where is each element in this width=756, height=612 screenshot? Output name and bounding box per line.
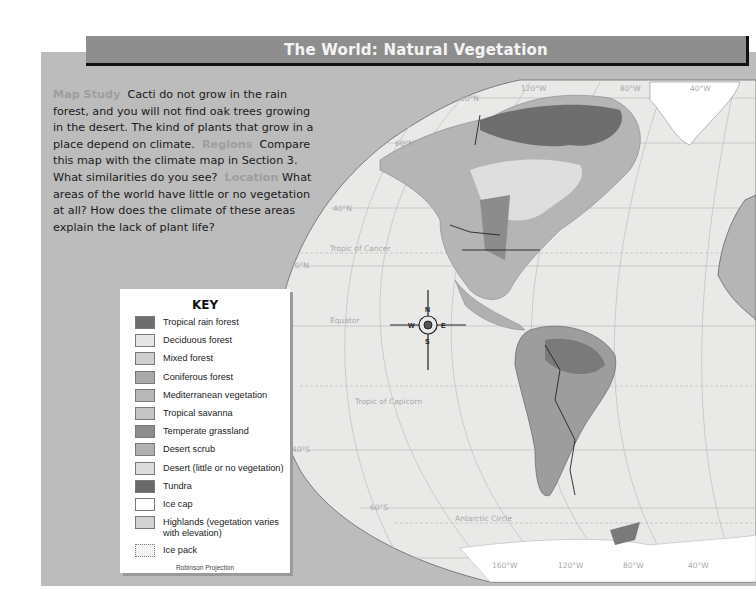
swatch-ice-pack bbox=[135, 544, 155, 557]
svg-text:Antarctic Circle: Antarctic Circle bbox=[455, 514, 512, 523]
swatch-coniferous-forest bbox=[135, 371, 155, 384]
svg-text:Equator: Equator bbox=[330, 316, 360, 325]
projection-label: Robinson Projection bbox=[120, 564, 290, 571]
swatch-tropical-savanna bbox=[135, 407, 155, 420]
svg-text:80°N: 80°N bbox=[460, 94, 479, 103]
key-label: Tropical rain forest bbox=[163, 316, 239, 328]
key-item: Desert (little or no vegetation) bbox=[135, 462, 290, 480]
key-label: Tropical savanna bbox=[163, 407, 233, 419]
map-study-label: Map Study bbox=[53, 88, 120, 101]
swatch-mediterranean bbox=[135, 389, 155, 402]
key-item: Highlands (vegetation varies with elevat… bbox=[135, 516, 290, 544]
key-label: Temperate grassland bbox=[163, 425, 249, 437]
svg-text:40°S: 40°S bbox=[292, 445, 310, 454]
swatch-tundra bbox=[135, 480, 155, 493]
key-title: KEY bbox=[120, 298, 290, 312]
svg-text:80°W: 80°W bbox=[623, 561, 644, 570]
map-key: KEY Tropical rain forest Deciduous fores… bbox=[120, 289, 290, 573]
svg-text:60°S: 60°S bbox=[370, 503, 388, 512]
key-item: Ice pack bbox=[135, 544, 290, 562]
svg-text:Tropic of Capicorn: Tropic of Capicorn bbox=[354, 397, 422, 406]
swatch-temperate-grassland bbox=[135, 425, 155, 438]
key-item: Coniferous forest bbox=[135, 371, 290, 389]
key-item: Tropical savanna bbox=[135, 407, 290, 425]
regions-label: Regions bbox=[202, 138, 252, 151]
svg-text:160°W: 160°W bbox=[492, 561, 518, 570]
key-item: Temperate grassland bbox=[135, 425, 290, 443]
svg-text:Tropic of Cancer: Tropic of Cancer bbox=[329, 244, 391, 253]
key-label: Coniferous forest bbox=[163, 371, 233, 383]
swatch-desert-scrub bbox=[135, 443, 155, 456]
svg-text:S: S bbox=[425, 338, 430, 345]
swatch-mixed-forest bbox=[135, 352, 155, 365]
key-item: Tundra bbox=[135, 480, 290, 498]
key-label: Tundra bbox=[163, 480, 192, 492]
key-item: Tropical rain forest bbox=[135, 316, 290, 334]
svg-text:20°N: 20°N bbox=[290, 261, 309, 270]
location-label: Location bbox=[225, 171, 279, 184]
key-label: Deciduous forest bbox=[163, 334, 232, 346]
title-bar: The World: Natural Vegetation bbox=[86, 36, 749, 66]
swatch-ice-cap bbox=[135, 498, 155, 511]
svg-text:N: N bbox=[425, 306, 430, 313]
key-item: Desert scrub bbox=[135, 443, 290, 461]
intro-text: Map Study Cacti do not grow in the rain … bbox=[53, 87, 318, 236]
key-item: Mediterranean vegetation bbox=[135, 389, 290, 407]
key-label: Desert (little or no vegetation) bbox=[163, 462, 284, 474]
svg-text:40°N: 40°N bbox=[333, 204, 352, 213]
key-label: Highlands (vegetation varies with elevat… bbox=[163, 516, 290, 539]
key-item: Mixed forest bbox=[135, 352, 290, 370]
page-title: The World: Natural Vegetation bbox=[86, 41, 746, 59]
key-label: Mediterranean vegetation bbox=[163, 389, 267, 401]
swatch-desert bbox=[135, 462, 155, 475]
svg-text:120°W: 120°W bbox=[521, 84, 547, 93]
svg-text:E: E bbox=[441, 322, 446, 329]
swatch-tropical-rain-forest bbox=[135, 316, 155, 329]
key-label: Ice pack bbox=[163, 544, 197, 556]
svg-text:120°W: 120°W bbox=[558, 561, 584, 570]
key-label: Ice cap bbox=[163, 498, 193, 510]
svg-text:40°W: 40°W bbox=[688, 561, 709, 570]
key-label: Mixed forest bbox=[163, 352, 213, 364]
svg-text:80°W: 80°W bbox=[620, 84, 641, 93]
swatch-highlands bbox=[135, 516, 155, 529]
swatch-deciduous-forest bbox=[135, 334, 155, 347]
svg-text:60°N: 60°N bbox=[395, 139, 414, 148]
key-item: Deciduous forest bbox=[135, 334, 290, 352]
key-label: Desert scrub bbox=[163, 443, 215, 455]
svg-text:W: W bbox=[408, 322, 415, 329]
key-item: Ice cap bbox=[135, 498, 290, 516]
svg-text:40°W: 40°W bbox=[690, 84, 711, 93]
